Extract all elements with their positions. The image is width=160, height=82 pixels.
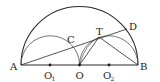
point-o2 bbox=[108, 64, 111, 67]
label-t: T bbox=[96, 26, 103, 37]
label-c: C bbox=[67, 34, 75, 45]
label-a: A bbox=[9, 61, 18, 72]
large-semicircle bbox=[21, 7, 138, 65]
point-o bbox=[78, 64, 81, 67]
segment-ot bbox=[80, 37, 100, 65]
label-o: O bbox=[76, 70, 84, 81]
label-b: B bbox=[140, 61, 147, 72]
label-o2-sub: 2 bbox=[111, 75, 115, 82]
semicircle-o2 bbox=[80, 36, 139, 65]
geometry-diagram: A B C T D O O 1 O 2 bbox=[0, 0, 160, 82]
label-o1-sub: 1 bbox=[52, 75, 56, 82]
segment-tb bbox=[99, 37, 138, 65]
point-o1 bbox=[49, 64, 52, 67]
label-d: D bbox=[129, 21, 137, 32]
